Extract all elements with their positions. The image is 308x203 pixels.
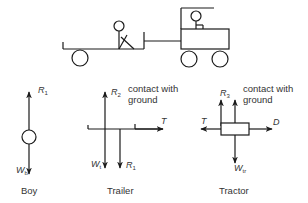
- trailer-wheel: [72, 50, 88, 66]
- label-t-tractor: T: [201, 117, 207, 126]
- label-wtr: Wtr: [234, 164, 246, 174]
- trailer-drawing: [63, 32, 144, 66]
- tractor-drawing: [181, 8, 229, 67]
- scene-illustration: [63, 8, 229, 67]
- caption-tractor: Tractor: [219, 186, 249, 196]
- note-trailer-contact: contact with ground: [128, 83, 178, 105]
- boy-body-dot: [22, 130, 36, 144]
- tractor-body-block: [221, 123, 249, 135]
- boy-free-body-diagram: [22, 92, 36, 174]
- caption-trailer: Trailer: [107, 186, 134, 196]
- label-r1-trailer: R1: [126, 161, 136, 171]
- tractor-wheel-front: [212, 51, 228, 67]
- tractor-free-body-diagram: [201, 100, 272, 163]
- label-r2: R2: [111, 88, 121, 98]
- boy-figure: [114, 21, 134, 49]
- label-wt: Wt: [91, 160, 101, 170]
- label-r3: R3: [220, 89, 230, 99]
- label-t: T: [161, 117, 167, 126]
- tractor-wheel-rear: [181, 51, 197, 67]
- note-tractor-contact: contact with ground: [243, 83, 293, 105]
- driver-head: [191, 11, 201, 21]
- label-r1: R1: [38, 86, 48, 96]
- label-d: D: [273, 118, 280, 127]
- caption-boy: Boy: [21, 186, 37, 196]
- label-wb: Wb: [16, 166, 28, 176]
